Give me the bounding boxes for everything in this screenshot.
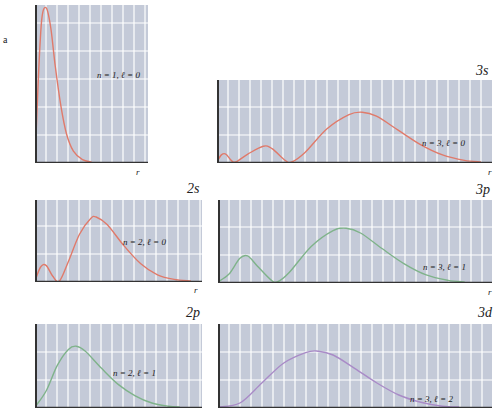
plot-background [217,80,492,163]
orbital-label-2p: 2p [186,306,200,320]
quantum-number-annotation-2s: n = 2, ℓ = 0 [123,237,166,247]
panel-3p: n = 3, ℓ = 1 [218,200,492,283]
quantum-number-annotation-3s: n = 3, ℓ = 0 [422,138,465,148]
plot-2s: n = 2, ℓ = 0 [35,200,202,282]
plot-3p: n = 3, ℓ = 1 [218,200,492,283]
orbital-label-2s: 2s [187,182,199,196]
plot-2p: n = 2, ℓ = 1 [35,324,202,408]
r-axis-label-2s: r [194,286,198,295]
panel-2p: n = 2, ℓ = 1 [35,324,202,408]
panel-2s: n = 2, ℓ = 0 [35,200,202,282]
plot-background [35,324,202,408]
figure-side-label: a [3,34,7,45]
plot-background [35,5,148,163]
orbital-label-3d: 3d [478,306,492,320]
orbital-label-3s: 3s [476,64,488,78]
plot-background [35,200,202,282]
orbital-label-3p: 3p [476,183,490,197]
panel-3d: n = 3, ℓ = 2 [218,324,492,408]
panel-1s: n = 1, ℓ = 0 [35,5,148,163]
r-axis-label-1s: r [136,168,140,177]
quantum-number-annotation-3p: n = 3, ℓ = 1 [423,262,466,272]
quantum-number-annotation-1s: n = 1, ℓ = 0 [97,70,140,80]
r-axis-label-3p: r [488,288,492,297]
r-axis-label-3s: r [488,168,492,177]
quantum-number-annotation-3d: n = 3, ℓ = 2 [410,394,453,404]
plot-1s: n = 1, ℓ = 0 [35,5,148,163]
quantum-number-annotation-2p: n = 2, ℓ = 1 [113,368,156,378]
panel-3s: n = 3, ℓ = 0 [217,80,492,163]
plot-3s: n = 3, ℓ = 0 [217,80,492,163]
plot-3d: n = 3, ℓ = 2 [218,324,492,408]
